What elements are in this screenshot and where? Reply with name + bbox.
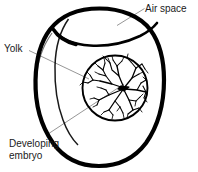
embryo-vessel-branch [109, 110, 113, 115]
embryo-vessel-trunk [124, 68, 136, 88]
embryo-vessel-branch [129, 100, 136, 101]
egg-anatomy-figure: Air space Yolk Developingembryo [0, 0, 198, 172]
embryo-capillary [95, 63, 98, 66]
embryo-capillary [140, 94, 143, 97]
embryo-vessel-branch [141, 80, 146, 83]
embryo-vessel-branch [88, 80, 100, 83]
embryo-capillary [101, 112, 104, 115]
embryo-capillary [135, 101, 136, 106]
label-air-space: Air space [145, 3, 187, 15]
embryo-capillary [117, 107, 120, 111]
embryo-capillary [93, 105, 97, 107]
embryo-capillary [145, 69, 148, 73]
embryo-vessel-branch [104, 110, 109, 112]
embryo-vessel-branch [106, 90, 109, 95]
embryo-capillary [122, 57, 124, 61]
embryo-vessel-branch [142, 64, 145, 69]
embryo-vessel-branch [137, 83, 141, 90]
embryo-capillary [123, 113, 124, 118]
embryo-vessel-branch [128, 110, 133, 114]
embryo-capillary [87, 72, 90, 75]
embryo-vessel-branch [115, 101, 120, 107]
label-yolk: Yolk [4, 43, 23, 55]
label-developing-embryo-line2: embryo [9, 150, 42, 161]
embryo-vessel-branch [113, 60, 117, 66]
embryo-vessel-branch [136, 97, 140, 101]
embryo-capillary [139, 72, 143, 74]
embryo-capillary [90, 98, 94, 99]
air-space-membrane-taper [53, 29, 76, 45]
embryo-capillary [95, 72, 99, 74]
embryo-capillary [97, 87, 101, 88]
embryo-vessel-trunk [99, 90, 121, 100]
embryo-capillary [104, 58, 105, 63]
embryo-vessel-branch [101, 88, 106, 90]
embryo-vessel-branch [94, 98, 99, 100]
embryo-vessel-branch [98, 66, 103, 70]
embryo-capillary [112, 56, 113, 60]
egg-shell-inner-left-line [55, 19, 78, 145]
embryo-vessel-trunk [117, 66, 124, 88]
label-developing-embryo: Developingembryo [9, 138, 59, 161]
embryo-vessel-trunk [125, 89, 146, 92]
label-developing-embryo-line1: Developing [9, 138, 59, 149]
embryo-capillary [112, 115, 113, 119]
embryo-vessel-branch [90, 75, 93, 80]
embryo-vessel-branch [117, 61, 122, 66]
embryo-vessel-branch [120, 107, 123, 113]
embryo-vessel-branch [103, 63, 105, 70]
